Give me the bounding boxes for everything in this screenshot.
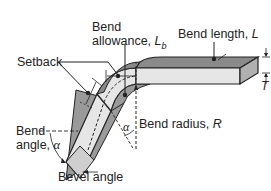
bend-length-label: Bend length, L — [178, 27, 259, 41]
setback-leader-2 — [58, 62, 88, 93]
bend-allowance-dot — [123, 93, 127, 97]
flange-front-face — [136, 68, 240, 84]
bend-angle-line1: Bend — [16, 124, 45, 138]
bend-radius-symbol: R — [213, 117, 222, 131]
bend-length-text: Bend length, — [178, 27, 252, 41]
setback-dot-2 — [86, 91, 90, 95]
flange-top-face — [136, 57, 258, 68]
bend-radius-text: Bend radius, — [139, 117, 213, 131]
bend-angle-label: Bend angle, α — [16, 124, 60, 152]
bevel-angle-label: Bevel angle — [58, 170, 123, 184]
setback-label: Setback — [17, 55, 62, 69]
bend-angle-symbol: α — [54, 138, 61, 152]
inner-alpha-label: α — [123, 120, 129, 134]
setback-leader — [58, 62, 118, 75]
bend-allowance-line1: Bend — [92, 20, 121, 34]
bend-allowance-symbol: L — [155, 34, 162, 48]
bend-allowance-label: Bend allowance, Lb — [92, 20, 167, 53]
bend-radius-label: Bend radius, R — [139, 117, 222, 131]
bend-angle-line2: angle, — [16, 138, 54, 152]
bend-allowance-subscript: b — [162, 41, 167, 51]
bend-length-symbol: L — [252, 27, 259, 41]
bend-allowance-line2: allowance, — [92, 34, 155, 48]
thickness-label: T — [261, 79, 268, 93]
